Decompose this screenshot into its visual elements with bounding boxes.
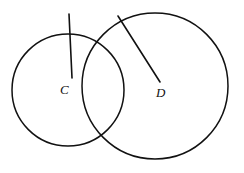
center-label-c: C [60,83,69,96]
construction-line-to-d [118,16,160,82]
construction-line-to-c [69,14,72,78]
figure-canvas [0,0,244,173]
center-label-d: D [156,86,165,99]
geometry-figure: C D [0,0,244,173]
circle-d-outline [82,13,228,159]
